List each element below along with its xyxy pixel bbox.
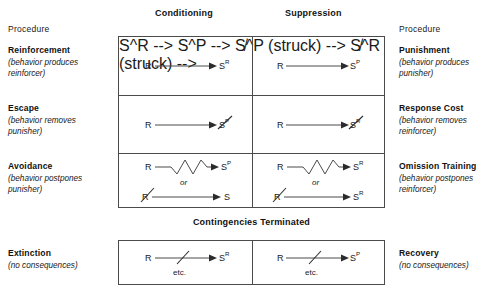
cell-response-cost-diagram: R S R: [253, 96, 384, 153]
right-entry-recovery: Recovery (no consequences): [399, 248, 469, 272]
cell-omission-training-diagram: R S R or S^R --> R S R: [253, 154, 384, 208]
left-entry-avoidance: Avoidance (behavior postpones punisher): [8, 161, 82, 195]
cell-avoidance-a-response: R: [145, 162, 152, 172]
right-entry-response-cost-note-line1: (behavior removes: [399, 116, 467, 127]
cell-extinction-response: R: [145, 253, 152, 263]
cell-punishment-response: R: [277, 61, 284, 71]
right-entry-omission-training-note-line1: (behavior postpones: [399, 174, 477, 185]
left-entry-reinforcement-note-line2: reinforcer): [8, 69, 78, 80]
left-entry-escape-note-line2: punisher): [8, 127, 76, 138]
cell-recovery-response: R: [277, 253, 284, 263]
right-entry-omission-training-note-line2: reinforcer): [399, 185, 477, 196]
right-entry-response-cost-note-line2: reinforcer): [399, 127, 467, 138]
column-header-conditioning: Conditioning: [155, 8, 213, 18]
cell-avoidance-a-zigzag-icon: [155, 160, 211, 174]
right-entry-punishment: Punishment (behavior produces punisher): [399, 45, 469, 79]
terminated-matrix: R S R etc. R S P etc.: [118, 240, 385, 285]
cell-punishment-diagram: R S P: [253, 37, 384, 95]
cell-avoidance-b-stimulus: S: [224, 192, 230, 202]
left-entry-avoidance-name: Avoidance: [8, 161, 82, 171]
cell-omission-b-stimulus-superscript: R: [359, 189, 364, 196]
cell-reinforcement-response: R: [145, 61, 152, 71]
cell-omission-a-zigzag-icon: [287, 160, 343, 174]
cell-escape-response: R: [145, 120, 152, 130]
column-header-suppression: Suppression: [285, 8, 342, 18]
left-entry-extinction: Extinction (no consequences): [8, 248, 78, 272]
left-entry-reinforcement-note-line1: (behavior produces: [8, 58, 78, 69]
cell-omission-a-response: R: [277, 162, 284, 172]
cell-recovery-etc-label: etc.: [305, 268, 318, 277]
left-procedure-heading-label: Procedure: [8, 24, 49, 34]
right-entry-punishment-name: Punishment: [399, 45, 469, 55]
right-entry-omission-training-name: Omission Training: [399, 161, 477, 171]
right-entry-omission-training: Omission Training (behavior postpones re…: [399, 161, 477, 195]
left-entry-extinction-name: Extinction: [8, 248, 78, 258]
cell-avoidance-diagram: R S P or S --> R S: [119, 154, 252, 208]
left-entry-avoidance-note-line2: punisher): [8, 185, 82, 196]
cell-recovery-stimulus-superscript: P: [356, 250, 360, 257]
left-entry-escape-note-line1: (behavior removes: [8, 116, 76, 127]
cell-avoidance-a-stimulus-superscript: P: [227, 159, 231, 166]
right-procedure-heading: Procedure: [399, 18, 440, 36]
cell-escape-diagram: R S P: [119, 96, 252, 153]
right-entry-punishment-note-line2: punisher): [399, 69, 469, 80]
right-entry-response-cost-name: Response Cost: [399, 103, 467, 113]
cell-extinction-diagram: R S R etc.: [119, 241, 252, 285]
cell-avoidance-or-label: or: [180, 178, 187, 187]
cell-reinforcement-diagram: R S R: [119, 37, 252, 95]
right-procedure-heading-label: Procedure: [399, 24, 440, 34]
right-entry-recovery-note-line1: (no consequences): [399, 261, 469, 272]
contingencies-terminated-banner: Contingencies Terminated: [118, 217, 385, 227]
cell-reinforcement-stimulus-superscript: R: [225, 58, 230, 65]
cell-recovery-diagram: R S P etc.: [253, 241, 384, 285]
right-entry-punishment-note-line1: (behavior produces: [399, 58, 469, 69]
cell-response-cost-response: R: [277, 120, 284, 130]
cell-omission-or-label: or: [312, 178, 319, 187]
cell-omission-a-stimulus-superscript: R: [359, 159, 364, 166]
left-entry-escape-name: Escape: [8, 103, 76, 113]
cell-extinction-etc-label: etc.: [173, 268, 186, 277]
contingency-matrix: S^R --> R S R S^P --> R S P S̸^P (struck…: [118, 36, 385, 208]
left-procedure-heading: Procedure: [8, 18, 49, 36]
cell-punishment-stimulus-superscript: P: [356, 58, 360, 65]
right-entry-recovery-name: Recovery: [399, 248, 469, 258]
left-entry-avoidance-note-line1: (behavior postpones: [8, 174, 82, 185]
left-entry-reinforcement: Reinforcement (behavior produces reinfor…: [8, 45, 78, 79]
left-entry-extinction-note-line1: (no consequences): [8, 261, 78, 272]
right-entry-response-cost: Response Cost (behavior removes reinforc…: [399, 103, 467, 137]
cell-extinction-stimulus-superscript: R: [225, 250, 230, 257]
left-entry-escape: Escape (behavior removes punisher): [8, 103, 76, 137]
left-entry-reinforcement-name: Reinforcement: [8, 45, 78, 55]
